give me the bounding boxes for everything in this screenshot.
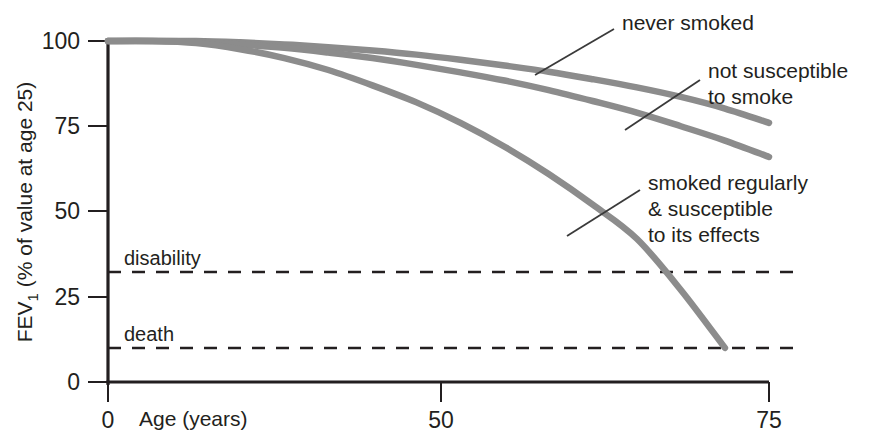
annotation-smoked-line1: smoked regularly (648, 171, 808, 194)
annotation-not-susceptible-line2: to smoke (708, 85, 793, 108)
curve-group (108, 41, 769, 348)
annotation-smoked-line2: & susceptible (648, 197, 773, 220)
y-tick-label-75: 75 (54, 113, 80, 139)
y-tick-label-100: 100 (42, 28, 80, 54)
y-tick-label-25: 25 (54, 284, 80, 310)
x-tick-label-50: 50 (428, 407, 454, 433)
annotation-not-susceptible: not susceptible to smoke (708, 59, 848, 108)
y-tick-label-50: 50 (54, 198, 80, 224)
annotation-smoked-susceptible: smoked regularly & susceptible to its ef… (648, 171, 808, 246)
svg-text:FEV1 (% of value at age 25): FEV1 (% of value at age 25) (13, 82, 41, 342)
fev1-decline-chart: 100 75 50 25 0 0 50 75 Age (years) FEV1 … (0, 0, 880, 447)
leader-line-never-smoked (535, 29, 614, 75)
annotation-never-smoked: never smoked (622, 11, 754, 34)
y-axis-title-rest: (% of value at age 25) (13, 82, 36, 293)
x-tick-label-0: 0 (102, 407, 115, 433)
threshold-label-disability: disability (124, 247, 201, 269)
annotation-not-susceptible-line1: not susceptible (708, 59, 848, 82)
x-tick-label-75: 75 (756, 407, 782, 433)
threshold-label-death: death (124, 323, 174, 345)
chart-container: 100 75 50 25 0 0 50 75 Age (years) FEV1 … (0, 0, 880, 447)
y-tick-label-0: 0 (67, 369, 80, 395)
x-axis-title: Age (years) (139, 407, 248, 430)
y-axis-title-main: FEV (13, 301, 36, 342)
y-axis-title: FEV1 (% of value at age 25) (13, 82, 41, 342)
annotation-smoked-line3: to its effects (648, 223, 760, 246)
y-tick-marks (88, 41, 108, 382)
x-tick-marks (108, 382, 769, 402)
y-axis-title-subscript: 1 (24, 293, 41, 301)
